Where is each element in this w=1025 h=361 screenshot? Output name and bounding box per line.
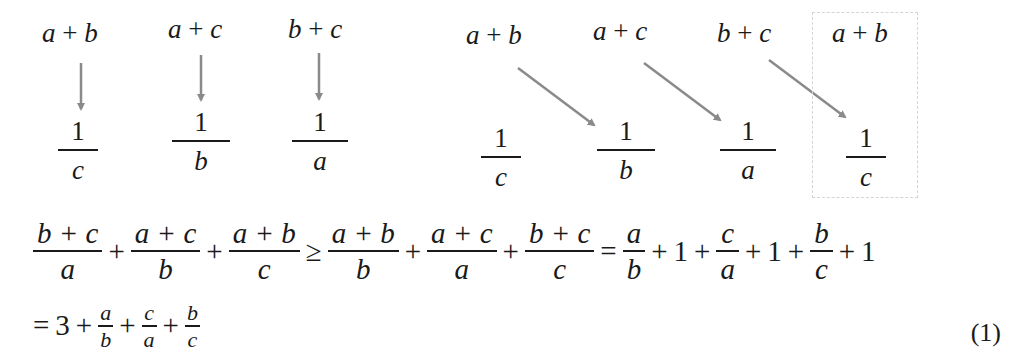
lhs-term-2: a + cb — [131, 218, 200, 285]
right-fraction-1: 1c — [481, 125, 521, 191]
left-numerator-3: b + c — [288, 16, 342, 43]
mid-term-3: b + cc — [525, 218, 594, 285]
left-fraction-3: 1a — [292, 109, 348, 175]
plus-sign: + — [206, 235, 222, 268]
plus-sign: + — [503, 235, 519, 268]
line2-term-1: ab — [98, 301, 113, 351]
one: 1 — [767, 235, 782, 268]
right-numerator-2: a + c — [593, 18, 647, 45]
plus-sign: + — [163, 309, 179, 342]
rhs-term-3: bc — [810, 218, 833, 285]
rhs-term-1: ab — [623, 218, 646, 285]
one: 1 — [861, 235, 876, 268]
arrow-diag-1 — [518, 68, 594, 125]
plus-sign: + — [839, 235, 855, 268]
line2-term-2: ca — [142, 301, 157, 351]
equation-line-2: = 3 + ab + ca + bc — [30, 301, 203, 351]
lhs-term-1: b + ca — [33, 218, 102, 285]
plus-sign: + — [119, 309, 135, 342]
equals-sign: = — [600, 235, 616, 268]
right-fraction-3: 1a — [720, 118, 776, 184]
geq-sign: ≥ — [306, 235, 322, 268]
equation-line-1: b + ca + a + cb + a + bc ≥ a + bb + a + … — [30, 218, 878, 285]
mid-term-1: a + bb — [328, 218, 399, 285]
line2-term-3: bc — [185, 301, 200, 351]
right-fraction-4: 1c — [846, 125, 886, 191]
right-numerator-3: b + c — [717, 20, 771, 47]
three: 3 — [55, 309, 70, 342]
left-fraction-2: 1b — [172, 109, 230, 175]
plus-sign: + — [745, 235, 761, 268]
one: 1 — [674, 235, 689, 268]
plus-sign: + — [694, 235, 710, 268]
right-numerator-4: a + b — [832, 20, 888, 47]
mid-term-2: a + ca — [427, 218, 496, 285]
rhs-term-2: ca — [716, 218, 739, 285]
plus-sign: + — [651, 235, 667, 268]
left-fraction-1: 1c — [58, 118, 98, 184]
equals-sign: = — [33, 309, 49, 342]
arrow-diag-2 — [644, 63, 720, 120]
right-fraction-2: 1b — [597, 118, 655, 184]
plus-sign: + — [76, 309, 92, 342]
plus-sign: + — [788, 235, 804, 268]
plus-sign: + — [405, 235, 421, 268]
right-numerator-1: a + b — [466, 22, 522, 49]
left-numerator-2: a + c — [168, 16, 222, 43]
plus-sign: + — [108, 235, 124, 268]
equation-number: (1) — [971, 318, 1001, 348]
lhs-term-3: a + bc — [229, 218, 300, 285]
left-numerator-1: a + b — [42, 20, 98, 47]
